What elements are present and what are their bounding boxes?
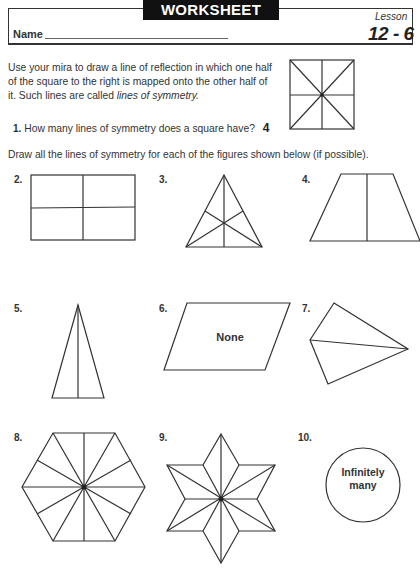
rectangle-figure [31,175,135,240]
isosceles-triangle-figure [52,305,104,398]
hexagon-figure [22,433,145,541]
trapezoid-figure [310,174,420,241]
circle-answer-line1: Infinitely [326,466,400,479]
circle-answer: Infinitely many [326,466,400,492]
star-figure [167,434,275,563]
circle-answer-line2: many [326,479,400,492]
example-square-figure [290,60,354,129]
figures-canvas [0,0,420,581]
kite-figure [310,303,408,384]
equilateral-triangle-figure [186,175,262,247]
parallelogram-answer: None [195,331,265,343]
